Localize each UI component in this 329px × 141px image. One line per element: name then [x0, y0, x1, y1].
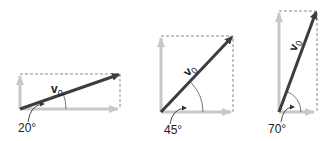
vector-label: v0: [51, 82, 63, 98]
angle-arc: [191, 82, 203, 112]
angle-arc: [63, 93, 66, 109]
angle-pointer-head: [182, 106, 187, 111]
velocity-vector: [20, 75, 119, 110]
angle-arc: [287, 91, 302, 112]
angle-label: 20°: [18, 121, 36, 135]
panel-70deg: v0 70°: [268, 11, 317, 136]
angle-pointer: [170, 108, 184, 124]
velocity-diagram: v0 20° v0 45° v0 70°: [0, 0, 329, 141]
panel-20deg: v0 20°: [18, 74, 120, 135]
angle-pointer-head: [290, 105, 295, 110]
velocity-vector: [279, 12, 316, 112]
vector-label: v0: [180, 61, 200, 81]
angle-label: 45°: [164, 123, 182, 137]
panel-45deg: v0 45°: [161, 36, 233, 137]
angle-label: 70°: [268, 122, 286, 136]
